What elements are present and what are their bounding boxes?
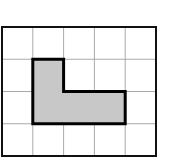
grid-diagram xyxy=(1,26,157,157)
l-shape xyxy=(33,59,125,124)
grid-svg xyxy=(1,26,157,157)
